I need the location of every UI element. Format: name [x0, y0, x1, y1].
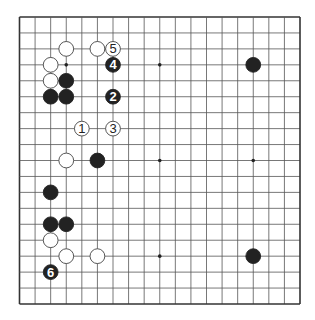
white-stone — [59, 249, 74, 264]
black-stone-icon — [43, 217, 58, 232]
star-point — [251, 159, 255, 163]
star-point — [158, 63, 162, 67]
white-stone — [90, 249, 105, 264]
black-stone-icon — [59, 73, 74, 88]
black-stone-icon — [246, 249, 261, 264]
white-stone — [90, 41, 105, 56]
black-stone — [59, 73, 74, 88]
black-stone-icon — [90, 153, 105, 168]
star-point — [64, 63, 68, 67]
black-stone — [246, 57, 261, 72]
black-stone-move-2: 2 — [106, 89, 121, 104]
black-stone-move-4: 4 — [106, 57, 121, 72]
white-stone-icon — [90, 41, 105, 56]
star-point — [158, 254, 162, 258]
black-stone-icon — [43, 89, 58, 104]
move-number-label: 5 — [109, 41, 116, 56]
move-number-label: 3 — [109, 121, 116, 136]
black-stone-icon — [43, 185, 58, 200]
move-number-label: 2 — [109, 89, 116, 104]
white-stone-move-5: 5 — [106, 41, 121, 56]
black-stone-icon — [59, 89, 74, 104]
go-board-diagram: 542136 — [0, 0, 315, 320]
white-stone-move-1: 1 — [74, 121, 89, 136]
star-point — [158, 159, 162, 163]
white-stone-move-3: 3 — [106, 121, 121, 136]
move-number-label: 1 — [78, 121, 85, 136]
white-stone-icon — [43, 57, 58, 72]
white-stone — [59, 41, 74, 56]
black-stone — [43, 89, 58, 104]
white-stone — [59, 153, 74, 168]
black-stone — [43, 217, 58, 232]
white-stone-icon — [59, 41, 74, 56]
black-stone — [59, 217, 74, 232]
go-board: 542136 — [0, 0, 315, 320]
white-stone — [43, 73, 58, 88]
white-stone-icon — [59, 153, 74, 168]
white-stone — [43, 57, 58, 72]
black-stone — [43, 185, 58, 200]
move-number-label: 6 — [47, 265, 54, 280]
black-stone-icon — [246, 57, 261, 72]
white-stone-icon — [43, 233, 58, 248]
black-stone — [246, 249, 261, 264]
white-stone-icon — [59, 249, 74, 264]
black-stone-icon — [59, 217, 74, 232]
white-stone-icon — [90, 249, 105, 264]
white-stone-icon — [43, 73, 58, 88]
black-stone — [90, 153, 105, 168]
move-number-label: 4 — [109, 57, 117, 72]
white-stone — [43, 233, 58, 248]
black-stone-move-6: 6 — [43, 265, 58, 280]
black-stone — [59, 89, 74, 104]
